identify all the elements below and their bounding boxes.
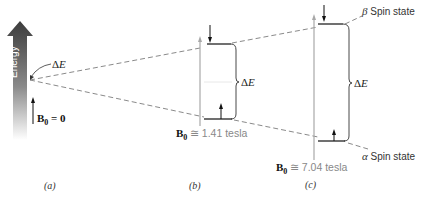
energy-axis-label: Energy [8,46,19,78]
alpha-spin-state-label: α Spin state [362,151,415,162]
spin-up-arrow-icon [332,129,336,135]
spin-up-arrow-icon [219,103,223,109]
panel-b-levels [198,25,239,126]
panel-c-levels [312,5,352,160]
panel-a-caption: (a) [44,181,56,191]
panel-b-caption: (b) [189,181,201,191]
spin-down-arrow-icon [208,37,212,43]
brace-b [231,44,239,119]
panel-c-field-label: B0 ≅ 7.04 tesla [276,162,347,176]
spin-state-energy-diagram: Energy ΔE B0 = 0 ΔE B0 ≅ 1.41 tesla ΔE B… [0,0,425,200]
energy-axis-arrow [7,21,33,140]
origin-delta-e-label: ΔE [52,59,66,70]
panel-c-delta-e-label: ΔE [354,78,368,89]
panel-b-field-label: B0 ≅ 1.41 tesla [176,128,247,142]
beta-spin-state-label: β Spin state [362,6,415,17]
brace-c [343,24,352,141]
spin-down-arrow-icon [322,16,326,22]
field-zero-label: B0 = 0 [37,113,66,127]
panel-c-caption: (c) [305,180,316,190]
panel-b-delta-e-label: ΔE [241,77,255,88]
field-arrow-icon [31,97,35,124]
